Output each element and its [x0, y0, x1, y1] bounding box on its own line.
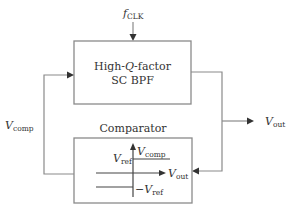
- comparator-block: Comparator Vcomp Vout Vref −Vref: [74, 122, 192, 203]
- lower-level-label: −Vref: [135, 183, 164, 197]
- y-axis-arrow-icon: [130, 143, 136, 150]
- x-axis-label: Vout: [168, 167, 188, 181]
- comparator-transfer-plot: Vcomp Vout Vref −Vref: [96, 143, 188, 197]
- output-feedback-wire: [191, 72, 222, 171]
- comparator-title: Comparator: [99, 122, 167, 135]
- feedback-path: Vcomp: [5, 72, 74, 175]
- block-diagram: fCLK High-Q-factor SC BPF Vout Vcomp Com…: [0, 0, 297, 214]
- output-label: Vout: [265, 115, 285, 129]
- clock-label: fCLK: [122, 7, 144, 21]
- y-axis-label: Vcomp: [137, 145, 166, 159]
- filter-block: High-Q-factor SC BPF: [74, 41, 191, 104]
- filter-label-line1: High-Q-factor: [94, 60, 172, 73]
- upper-level-label: Vref: [113, 152, 133, 166]
- clock-arrow-icon: [130, 34, 137, 41]
- feedback-arrow-icon: [67, 72, 74, 79]
- x-axis-arrow-icon: [159, 170, 166, 176]
- feedback-wire: [44, 75, 74, 174]
- feedback-label: Vcomp: [5, 119, 34, 133]
- output-path: Vout: [191, 72, 285, 175]
- comparator-input-arrow-icon: [192, 168, 199, 175]
- filter-label-line2: SC BPF: [111, 74, 154, 87]
- output-arrow-icon: [247, 118, 254, 125]
- clock-input: fCLK: [122, 7, 144, 41]
